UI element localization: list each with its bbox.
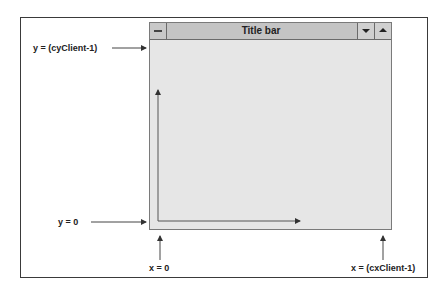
label-x-left: x = 0 (149, 263, 169, 273)
label-x-right: x = (cxClient-1) (351, 263, 415, 273)
label-y-top: y = (cyClient-1) (33, 43, 97, 53)
label-y-bottom: y = 0 (58, 217, 78, 227)
